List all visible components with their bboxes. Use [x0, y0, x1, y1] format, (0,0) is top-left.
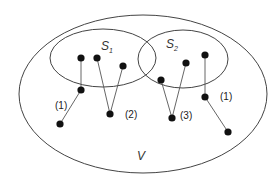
edges — [60, 55, 228, 132]
node — [168, 114, 175, 121]
node — [182, 59, 189, 66]
node — [157, 76, 164, 83]
component-label-1-left: (1) — [55, 100, 67, 111]
component-label-1-right: (1) — [220, 91, 232, 102]
node — [106, 110, 113, 117]
node — [56, 120, 63, 127]
component-label-3: (3) — [180, 110, 192, 121]
node — [93, 54, 100, 61]
node — [224, 128, 231, 135]
node — [77, 86, 84, 93]
set-v-label: V — [137, 149, 146, 163]
set-s2-label: S2 — [166, 37, 178, 52]
node — [77, 54, 84, 61]
set-s1-label: S1 — [101, 39, 113, 54]
set-graph-diagram: S1 S2 V (1) (2) (3) (1) — [0, 0, 280, 174]
node — [201, 51, 208, 58]
node — [119, 62, 126, 69]
component-label-2: (2) — [125, 109, 137, 120]
node — [201, 93, 208, 100]
set-s1-ellipse — [50, 29, 156, 87]
set-s2-ellipse — [138, 30, 228, 88]
